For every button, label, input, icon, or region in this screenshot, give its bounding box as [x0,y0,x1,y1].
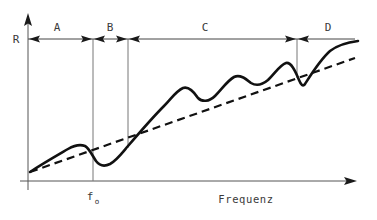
region-label-d: D [325,21,332,34]
region-label-a: A [54,21,61,34]
region-dimension-bar [28,36,355,43]
y-axis-label: R [13,33,20,46]
x-tick-label-f0-subscript: o [95,197,100,206]
frequency-response-figure: A B C D R f o Frequenz [0,0,377,220]
region-dividers [93,39,297,181]
response-curve [30,41,358,172]
x-axis-label: Frequenz [218,193,273,205]
x-tick-label-f0: f [87,190,94,203]
asymptote-line [30,58,355,172]
region-label-b: B [107,21,114,34]
x-axis [20,177,357,185]
region-label-c: C [202,21,209,34]
